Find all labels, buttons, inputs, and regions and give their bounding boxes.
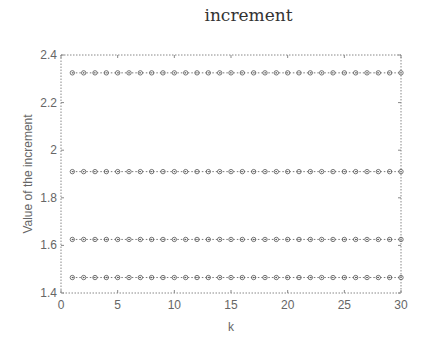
data-marker-dot bbox=[344, 171, 345, 172]
data-marker-dot bbox=[389, 171, 390, 172]
data-marker-dot bbox=[151, 239, 152, 240]
y-tick-label: 2.4 bbox=[40, 48, 57, 62]
data-marker-dot bbox=[117, 171, 118, 172]
data-marker-dot bbox=[185, 239, 186, 240]
data-marker-dot bbox=[117, 239, 118, 240]
data-marker-dot bbox=[196, 171, 197, 172]
data-marker-dot bbox=[72, 239, 73, 240]
data-marker-dot bbox=[400, 72, 401, 73]
data-marker-dot bbox=[230, 171, 231, 172]
data-marker-dot bbox=[378, 277, 379, 278]
data-marker-dot bbox=[219, 277, 220, 278]
data-marker-dot bbox=[400, 277, 401, 278]
data-marker-dot bbox=[287, 171, 288, 172]
x-tick-label: 30 bbox=[394, 298, 408, 312]
data-marker-dot bbox=[355, 72, 356, 73]
x-tick-label: 25 bbox=[338, 298, 352, 312]
data-marker-dot bbox=[162, 277, 163, 278]
data-marker-dot bbox=[276, 72, 277, 73]
data-marker-dot bbox=[332, 72, 333, 73]
data-marker-dot bbox=[140, 239, 141, 240]
y-tick-label: 2.2 bbox=[40, 96, 57, 110]
data-marker-dot bbox=[208, 72, 209, 73]
data-marker-dot bbox=[72, 171, 73, 172]
data-marker-dot bbox=[355, 171, 356, 172]
data-marker-dot bbox=[264, 277, 265, 278]
data-marker-dot bbox=[389, 239, 390, 240]
data-marker-dot bbox=[117, 277, 118, 278]
data-marker-dot bbox=[321, 239, 322, 240]
data-marker-dot bbox=[162, 171, 163, 172]
data-marker-dot bbox=[106, 277, 107, 278]
data-marker-dot bbox=[151, 171, 152, 172]
data-marker-dot bbox=[94, 72, 95, 73]
data-marker-dot bbox=[72, 72, 73, 73]
data-marker-dot bbox=[185, 171, 186, 172]
data-marker-dot bbox=[106, 239, 107, 240]
y-tick-label: 1.6 bbox=[40, 238, 57, 252]
data-marker-dot bbox=[366, 277, 367, 278]
data-marker-dot bbox=[94, 239, 95, 240]
data-marker-dot bbox=[242, 277, 243, 278]
data-marker-dot bbox=[321, 171, 322, 172]
data-marker-dot bbox=[253, 171, 254, 172]
data-marker-dot bbox=[332, 277, 333, 278]
x-tick-label: 15 bbox=[224, 298, 238, 312]
data-marker-dot bbox=[242, 239, 243, 240]
data-marker-dot bbox=[276, 277, 277, 278]
data-marker-dot bbox=[310, 239, 311, 240]
data-marker-dot bbox=[140, 171, 141, 172]
data-marker-dot bbox=[344, 239, 345, 240]
y-tick-label: 1.4 bbox=[40, 286, 57, 300]
data-marker-dot bbox=[378, 171, 379, 172]
data-marker-dot bbox=[128, 72, 129, 73]
data-marker-dot bbox=[128, 171, 129, 172]
data-marker-dot bbox=[355, 239, 356, 240]
data-marker-dot bbox=[378, 239, 379, 240]
data-marker-dot bbox=[230, 72, 231, 73]
data-marker-dot bbox=[310, 277, 311, 278]
x-tick-label: 5 bbox=[114, 298, 121, 312]
data-marker-dot bbox=[230, 239, 231, 240]
data-marker-dot bbox=[242, 72, 243, 73]
x-tick-label: 10 bbox=[168, 298, 182, 312]
data-marker-dot bbox=[162, 72, 163, 73]
data-marker-dot bbox=[128, 239, 129, 240]
y-axis-label: Value of the increment bbox=[21, 114, 35, 234]
data-marker-dot bbox=[287, 72, 288, 73]
data-marker-dot bbox=[162, 239, 163, 240]
data-marker-dot bbox=[389, 277, 390, 278]
data-marker-dot bbox=[366, 239, 367, 240]
data-marker-dot bbox=[344, 277, 345, 278]
data-marker-dot bbox=[208, 171, 209, 172]
data-marker-dot bbox=[253, 72, 254, 73]
x-tick-label: 20 bbox=[281, 298, 295, 312]
data-marker-dot bbox=[400, 239, 401, 240]
data-marker-dot bbox=[264, 171, 265, 172]
data-marker-dot bbox=[106, 171, 107, 172]
data-marker-dot bbox=[174, 72, 175, 73]
data-marker-dot bbox=[174, 171, 175, 172]
data-marker-dot bbox=[185, 72, 186, 73]
data-marker-dot bbox=[219, 171, 220, 172]
data-marker-dot bbox=[264, 72, 265, 73]
data-marker-dot bbox=[321, 72, 322, 73]
x-axis-label: k bbox=[228, 320, 235, 334]
data-marker-dot bbox=[83, 171, 84, 172]
data-marker-dot bbox=[264, 239, 265, 240]
data-marker-dot bbox=[332, 171, 333, 172]
data-marker-dot bbox=[140, 277, 141, 278]
line-chart: 0510152025301.41.61.822.22.4kValue of th… bbox=[0, 0, 429, 346]
data-marker-dot bbox=[174, 239, 175, 240]
data-marker-dot bbox=[208, 277, 209, 278]
data-marker-dot bbox=[174, 277, 175, 278]
data-marker-dot bbox=[94, 171, 95, 172]
data-marker-dot bbox=[72, 277, 73, 278]
data-marker-dot bbox=[219, 72, 220, 73]
data-marker-dot bbox=[117, 72, 118, 73]
data-marker-dot bbox=[366, 72, 367, 73]
data-marker-dot bbox=[321, 277, 322, 278]
data-marker-dot bbox=[298, 171, 299, 172]
data-marker-dot bbox=[276, 239, 277, 240]
data-marker-dot bbox=[287, 277, 288, 278]
